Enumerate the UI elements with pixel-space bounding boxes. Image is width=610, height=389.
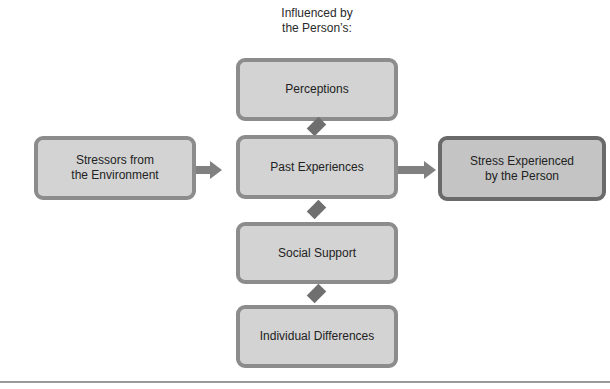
connector-diamond-3 xyxy=(307,284,326,303)
connector-diamond-2 xyxy=(307,200,326,219)
caption-line-2: the Person’s: xyxy=(262,21,372,36)
caption-line-1: Influenced by xyxy=(262,6,372,21)
individual-differences-label: Individual Differences xyxy=(260,329,375,344)
perceptions-label: Perceptions xyxy=(285,82,348,97)
individual-differences-box: Individual Differences xyxy=(236,305,398,368)
influence-caption: Influenced by the Person’s: xyxy=(262,6,372,36)
stress-label-1: Stress Experienced xyxy=(470,154,574,169)
perceptions-box: Perceptions xyxy=(236,58,398,121)
social-support-box: Social Support xyxy=(236,222,398,284)
stressors-label-1: Stressors from xyxy=(71,153,158,168)
past-experiences-box: Past Experiences xyxy=(236,135,398,199)
social-support-label: Social Support xyxy=(278,246,356,261)
arrow-right-icon xyxy=(424,161,436,179)
bottom-divider xyxy=(0,381,610,383)
arrow-right-icon xyxy=(210,161,222,179)
stressors-label-2: the Environment xyxy=(71,168,158,183)
stressors-box: Stressors from the Environment xyxy=(34,136,196,200)
arrow-right-shaft xyxy=(398,166,426,174)
past-experiences-label: Past Experiences xyxy=(270,160,363,175)
stress-label-2: by the Person xyxy=(470,169,574,184)
stress-experienced-box: Stress Experienced by the Person xyxy=(438,136,606,201)
